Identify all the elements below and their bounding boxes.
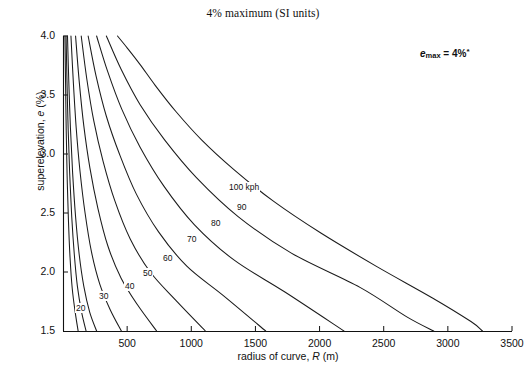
x-tick-label: 500: [97, 337, 157, 349]
y-tick-label: 4.0: [21, 29, 55, 41]
curve-label-20: 20: [75, 303, 86, 313]
superelevation-chart-figure: 4% maximum (SI units) emax = 4%* superel…: [0, 0, 526, 371]
curve-label-100-kph: 100 kph: [228, 182, 260, 192]
curve-series-50: [76, 36, 157, 331]
x-tick-label: 1500: [225, 337, 285, 349]
curve-label-70: 70: [186, 234, 197, 244]
curve-label-80: 80: [210, 218, 221, 228]
curve-label-50: 50: [142, 268, 153, 278]
curve-label-40: 40: [124, 281, 135, 291]
curve-label-90: 90: [236, 202, 247, 212]
curve-series-100-kph: [118, 36, 483, 331]
x-tick-label: 3500: [482, 337, 526, 349]
curve-label-60: 60: [162, 253, 173, 263]
x-tick-label: 2500: [354, 337, 414, 349]
y-tick-label: 2.0: [21, 265, 55, 277]
curve-series-60: [81, 36, 205, 331]
y-tick-label: 2.5: [21, 206, 55, 218]
x-tick-label: 2000: [290, 337, 350, 349]
curve-label-30: 30: [98, 291, 109, 301]
y-tick-label: 3.0: [21, 147, 55, 159]
y-tick-label: 1.5: [21, 324, 55, 336]
x-tick-label: 1000: [161, 337, 221, 349]
curve-series-40: [71, 36, 121, 331]
plot-area: [0, 0, 526, 371]
curve-series-90: [106, 36, 433, 331]
y-tick-label: 3.5: [21, 88, 55, 100]
x-tick-label: 3000: [418, 337, 478, 349]
